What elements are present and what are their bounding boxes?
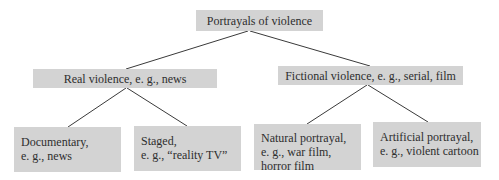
node-line: Staged, xyxy=(141,134,241,148)
connector-fictional-to-natural xyxy=(307,85,367,124)
node-line: Artificial portrayal, xyxy=(380,130,481,144)
node-line: Natural portrayal, xyxy=(261,131,361,145)
node-label: Real violence, e. g., news xyxy=(64,72,187,86)
node-fictional-violence: Fictional violence, e. g., serial, film xyxy=(278,66,463,85)
node-label: Portrayals of violence xyxy=(207,14,312,28)
node-line: e. g., violent cartoon xyxy=(380,144,481,158)
connector-root-to-fictional xyxy=(250,31,370,66)
node-natural-portrayal: Natural portrayal, e. g., war film, horr… xyxy=(254,124,361,170)
node-line: e. g., news xyxy=(21,149,121,163)
node-artificial-portrayal: Artificial portrayal, e. g., violent car… xyxy=(373,122,481,167)
connector-fictional-to-artificial xyxy=(368,85,428,122)
node-staged: Staged, e. g., “reality TV” xyxy=(134,126,241,171)
node-real-violence: Real violence, e. g., news xyxy=(33,69,217,88)
node-line: Documentary, xyxy=(21,135,121,149)
node-label: Fictional violence, e. g., serial, film xyxy=(285,69,456,83)
connector-real-to-staged xyxy=(127,88,187,126)
node-line: e. g., “reality TV” xyxy=(141,148,241,162)
connector-real-to-documentary xyxy=(68,88,126,127)
connector-root-to-real xyxy=(126,31,248,69)
node-line: horror film xyxy=(261,159,361,173)
node-documentary: Documentary, e. g., news xyxy=(14,127,121,172)
node-line: e. g., war film, xyxy=(261,145,361,159)
node-portrayals-of-violence: Portrayals of violence xyxy=(196,10,323,31)
